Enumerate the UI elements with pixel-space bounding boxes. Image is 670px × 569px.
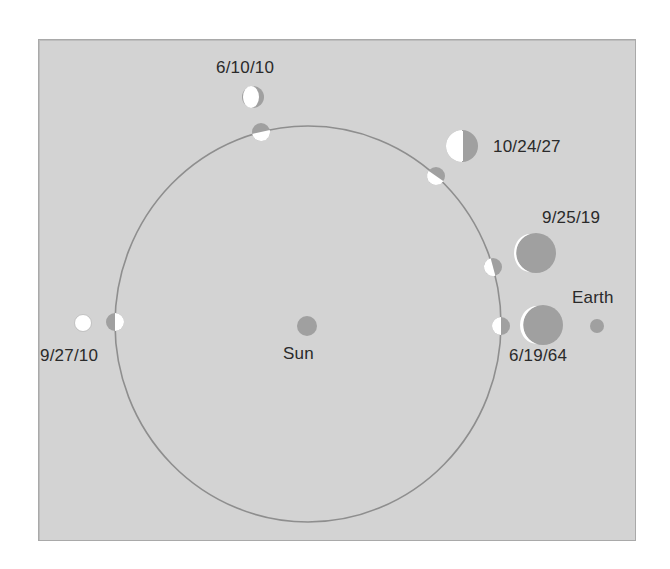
date-label-6-19-64: 6/19/64 xyxy=(509,346,567,366)
sun-icon xyxy=(297,316,317,336)
venus-orbit-6-19-64-icon xyxy=(488,313,510,339)
venus-view-10-24-27-icon xyxy=(446,130,478,162)
venus-orbit-6-10-10-icon xyxy=(248,123,276,148)
venus-orbit-9-25-19-icon xyxy=(476,254,502,283)
date-label-9-27-10: 9/27/10 xyxy=(40,346,98,366)
sun-label: Sun xyxy=(283,344,314,364)
date-label-9-25-19: 9/25/19 xyxy=(542,208,600,228)
earth-label: Earth xyxy=(572,288,614,308)
venus-view-6-10-10-icon xyxy=(242,86,264,108)
date-label-10-24-27: 10/24/27 xyxy=(493,137,561,157)
date-label-6-10-10: 6/10/10 xyxy=(216,58,274,78)
venus-phases-diagram xyxy=(0,0,670,569)
venus-view-9-27-10-icon xyxy=(75,315,92,332)
venus-orbit-10-24-27-icon xyxy=(417,167,446,195)
venus-view-9-25-19-icon xyxy=(514,233,556,273)
earth-icon xyxy=(590,319,604,333)
venus-orbit-9-27-10-icon xyxy=(106,309,128,335)
venus-view-6-19-64-icon xyxy=(520,305,563,345)
